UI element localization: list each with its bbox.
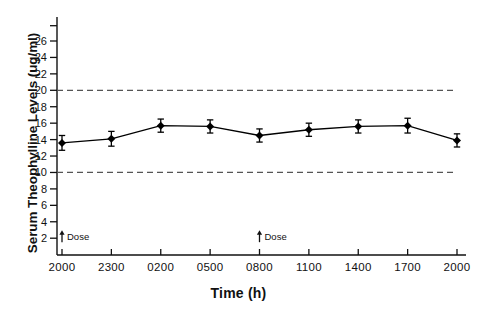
y-tick-label-4: 4 <box>41 216 47 228</box>
x-axis-title: Time (h) <box>0 285 477 301</box>
y-tick-label-12: 12 <box>35 150 47 162</box>
x-tick-label-7: 1700 <box>394 261 421 273</box>
y-tick-label-24: 24 <box>35 51 47 63</box>
data-point-5 <box>305 126 313 134</box>
data-series-line <box>58 118 461 150</box>
data-point-2 <box>157 122 165 130</box>
figure: Serum Theophylline Levels (ug/ml) 246810… <box>0 0 477 311</box>
y-tick-label-20: 20 <box>35 84 47 96</box>
data-point-7 <box>404 122 412 130</box>
x-tick-label-6: 1400 <box>345 261 372 273</box>
data-point-1 <box>107 135 115 143</box>
y-tick-label-26: 26 <box>35 35 47 47</box>
dose-annotation-0800-arrowhead-icon <box>257 230 262 235</box>
x-tick-label-5: 1100 <box>296 261 322 273</box>
data-point-8 <box>453 136 461 144</box>
y-axis-ticks: 2468101214161820222426 <box>35 35 57 244</box>
dose-annotations: DoseDose <box>59 230 286 242</box>
reference-lines <box>57 90 457 172</box>
x-tick-label-8: 2000 <box>444 261 471 273</box>
x-tick-label-3: 0500 <box>197 261 224 273</box>
y-tick-label-22: 22 <box>35 68 47 80</box>
y-tick-label-6: 6 <box>41 199 47 211</box>
data-point-6 <box>354 122 362 130</box>
x-tick-label-4: 0800 <box>246 261 273 273</box>
x-axis-ticks: 200023000200050008001100140017002000 <box>49 249 471 273</box>
y-tick-label-10: 10 <box>35 166 47 178</box>
dose-annotation-2000-arrowhead-icon <box>59 230 64 235</box>
y-tick-label-2: 2 <box>41 232 47 244</box>
y-tick-label-16: 16 <box>35 117 47 129</box>
data-point-0 <box>58 139 66 147</box>
y-tick-label-18: 18 <box>35 101 47 113</box>
y-tick-label-8: 8 <box>41 183 47 195</box>
data-point-3 <box>206 122 214 130</box>
dose-annotation-0800-label: Dose <box>265 231 287 242</box>
chart-plot-area: 2468101214161820222426 20002300020005000… <box>0 0 477 311</box>
dose-annotation-2000-label: Dose <box>67 231 89 242</box>
x-tick-label-2: 0200 <box>147 261 174 273</box>
data-point-4 <box>256 131 264 139</box>
x-tick-label-0: 2000 <box>49 261 76 273</box>
y-tick-label-14: 14 <box>35 134 47 146</box>
x-tick-label-1: 2300 <box>98 261 125 273</box>
